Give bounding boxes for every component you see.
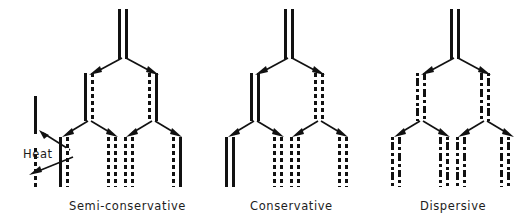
duplex-gen1-2: [148, 73, 158, 121]
strand-solid: [457, 9, 460, 59]
model-label-conservative: Conservative: [250, 199, 333, 213]
strand-dashed: [148, 73, 151, 121]
strand-mixed: [480, 73, 483, 121]
strand-solid: [284, 9, 287, 59]
strand-dashed: [297, 137, 300, 187]
division-arrow-4: [154, 120, 184, 138]
strand-mixed: [463, 137, 466, 187]
strand-dashed: [345, 137, 348, 187]
division-arrow-3: [456, 120, 486, 138]
division-arrow-1: [60, 120, 90, 138]
strand-dashed: [124, 137, 127, 187]
division-arrow-3: [290, 120, 320, 138]
strand-mixed: [391, 137, 394, 187]
strand-mixed: [439, 137, 442, 187]
division-arrow-4: [320, 120, 350, 138]
duplex-gen2-3: [290, 137, 300, 187]
duplex-gen1-1: [416, 73, 426, 121]
division-arrow-1: [392, 120, 422, 138]
strand-dashed: [321, 73, 324, 121]
strand-dashed: [172, 137, 175, 187]
replication-models-figure: Heat: [0, 0, 518, 219]
duplex-gen2-1: [225, 137, 235, 187]
strand-dashed: [131, 137, 134, 187]
strand-dashed: [338, 137, 341, 187]
strand-solid: [118, 9, 121, 59]
duplex-gen2-4: [500, 137, 510, 187]
model-label-semi-conservative: Semi-conservative: [69, 199, 186, 213]
duplex-gen0: [284, 9, 294, 59]
strand-mixed: [416, 73, 419, 121]
duplex-gen2-4: [172, 137, 182, 187]
division-arrow-1: [226, 120, 256, 138]
strand-solid: [291, 9, 294, 59]
duplex-gen2-2: [273, 137, 283, 187]
strand-mixed: [507, 137, 510, 187]
strand-solid: [179, 137, 182, 187]
division-arrow-2: [256, 120, 286, 138]
duplex-gen2-1: [391, 137, 401, 187]
strand-dashed: [273, 137, 276, 187]
duplex-gen0: [118, 9, 128, 59]
solid-line-strand: [34, 96, 37, 134]
strand-solid: [257, 73, 260, 121]
division-arrow-2: [422, 120, 452, 138]
duplex-gen1-2: [480, 73, 490, 121]
duplex-gen2-1: [59, 137, 69, 187]
strand-solid: [232, 137, 235, 187]
duplex-gen1-1: [250, 73, 260, 121]
strand-mixed: [456, 137, 459, 187]
strand-dashed: [66, 137, 69, 187]
duplex-gen1-2: [314, 73, 324, 121]
strand-solid: [450, 9, 453, 59]
strand-solid: [125, 9, 128, 59]
duplex-gen0: [450, 9, 460, 59]
strand-solid: [225, 137, 228, 187]
division-arrow-3: [124, 120, 154, 138]
heat-label: Heat: [23, 147, 53, 161]
duplex-gen2-2: [439, 137, 449, 187]
strand-mixed: [500, 137, 503, 187]
strand-solid: [250, 73, 253, 121]
duplex-gen2-3: [456, 137, 466, 187]
strand-mixed: [446, 137, 449, 187]
division-arrow-2: [90, 120, 120, 138]
strand-dashed: [314, 73, 317, 121]
strand-dashed: [114, 137, 117, 187]
duplex-gen1-1: [84, 73, 94, 121]
division-arrow-4: [486, 120, 516, 138]
strand-dashed: [91, 73, 94, 121]
duplex-gen2-2: [107, 137, 117, 187]
strand-mixed: [398, 137, 401, 187]
strand-solid: [155, 73, 158, 121]
strand-mixed: [423, 73, 426, 121]
strand-dashed: [280, 137, 283, 187]
legend-solid-strand: [34, 96, 37, 134]
strand-solid: [59, 137, 62, 187]
duplex-gen2-4: [338, 137, 348, 187]
strand-mixed: [487, 73, 490, 121]
duplex-gen2-3: [124, 137, 134, 187]
strand-dashed: [107, 137, 110, 187]
model-label-dispersive: Dispersive: [420, 199, 486, 213]
strand-dashed: [290, 137, 293, 187]
strand-solid: [84, 73, 87, 121]
